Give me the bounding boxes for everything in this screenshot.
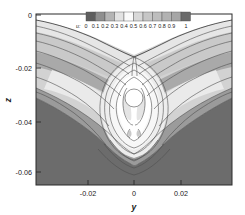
contour-plot-figure: -0.02 0 0.02 0 -0.02 -0.04 -0.06 y z bbox=[0, 0, 245, 215]
colorbar-ticklabel-0: 0 bbox=[85, 23, 88, 29]
x-axis-title: y bbox=[131, 202, 138, 212]
colorbar-swatch-10 bbox=[181, 12, 191, 21]
colorbar-ticklabel-5: 0.5 bbox=[130, 23, 138, 29]
colorbar-swatches bbox=[86, 12, 191, 21]
xtick-label-2: 0.02 bbox=[174, 189, 188, 198]
colorbar-swatch-7 bbox=[153, 12, 163, 21]
colorbar-ticklabel-4: 0.4 bbox=[120, 23, 128, 29]
xtick-label-1: 0 bbox=[132, 189, 136, 198]
colorbar-swatch-6 bbox=[143, 12, 153, 21]
ytick-label-1: -0.02 bbox=[16, 64, 32, 73]
ytick-label-3: -0.06 bbox=[16, 168, 32, 177]
colorbar-variable-label: u: bbox=[76, 23, 81, 29]
colorbar-swatch-9 bbox=[172, 12, 182, 21]
colorbar-swatch-2 bbox=[105, 12, 115, 21]
ytick-label-0: 0 bbox=[28, 11, 32, 20]
colorbar-swatch-4 bbox=[124, 12, 134, 21]
colorbar-swatch-5 bbox=[134, 12, 144, 21]
y-axis-title: z bbox=[3, 97, 13, 103]
colorbar-ticklabel-6: 0.6 bbox=[139, 23, 147, 29]
contour-plot-canvas: -0.02 0 0.02 0 -0.02 -0.04 -0.06 y z bbox=[0, 0, 245, 215]
xtick-label-0: -0.02 bbox=[80, 189, 96, 198]
ytick-label-2: -0.04 bbox=[16, 118, 32, 127]
colorbar-legend: u: 0 0.1 0.2 0.3 0.4 0.5 0.6 0.7 0.8 0.9… bbox=[76, 12, 191, 29]
colorbar-swatch-3 bbox=[115, 12, 125, 21]
colorbar-ticklabel-9: 0.9 bbox=[168, 23, 176, 29]
colorbar-ticklabel-3: 0.3 bbox=[111, 23, 119, 29]
colorbar-ticklabel-8: 0.8 bbox=[158, 23, 166, 29]
colorbar-ticklabel-1: 0.1 bbox=[92, 23, 100, 29]
colorbar-swatch-0 bbox=[86, 12, 96, 21]
colorbar-swatch-1 bbox=[96, 12, 106, 21]
colorbar-ticklabel-2: 0.2 bbox=[101, 23, 109, 29]
colorbar-ticklabel-10: 1 bbox=[185, 23, 188, 29]
colorbar-swatch-8 bbox=[162, 12, 172, 21]
contour-field bbox=[36, 14, 232, 185]
colorbar-ticklabel-7: 0.7 bbox=[149, 23, 157, 29]
